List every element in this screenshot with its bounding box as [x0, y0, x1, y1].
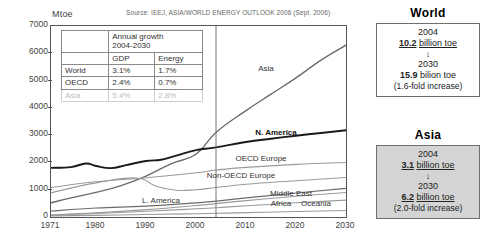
world-summary-box: 2004 10.2 billion toe ↓ 2030 15.9 bilion… [376, 23, 480, 97]
series-label-africa: Africa [271, 199, 291, 208]
table-row: World 3.1% 1.7% [62, 65, 203, 77]
table-row: Asia 5.4% 2.8% [62, 89, 203, 101]
asia-value-from: 3.1 billion toe [379, 160, 477, 171]
world-value-from-number: 10.2 [399, 38, 417, 48]
x-tick-label: 1971 [30, 220, 70, 230]
x-tick-label: 1990 [125, 220, 165, 230]
asia-value-to: 6.2 billion toe [379, 192, 477, 203]
x-tick-label: 2000 [175, 220, 215, 230]
cell-world-energy: 1.7% [155, 65, 203, 77]
asia-summary-box: 2004 3.1 billion toe ↓ 2030 6.2 billion … [376, 145, 480, 219]
cell-asia-energy: 2.8% [155, 89, 203, 101]
series-label-asia: Asia [258, 64, 274, 73]
world-value-from: 10.2 billion toe [379, 38, 477, 49]
world-summary-title: World [376, 6, 480, 20]
x-tick-label: 2010 [225, 220, 265, 230]
y-tick-label: 0 [10, 211, 48, 220]
cell-oecd-energy: 0.7% [155, 77, 203, 89]
cell-asia-gdp: 5.4% [109, 89, 155, 101]
x-axis: 1971198019902000201020202030 [0, 220, 375, 240]
asia-summary-title: Asia [376, 128, 480, 142]
world-year-from: 2004 [379, 27, 477, 38]
y-tick-label: 4000 [10, 102, 48, 111]
table-corner-cell [62, 31, 109, 53]
asia-increase-note: (2.0-fold increase) [379, 203, 477, 214]
y-tick-label: 3000 [10, 129, 48, 138]
series-label-oecd-europe: OECD Europe [235, 154, 286, 163]
column-header-energy: Energy [155, 53, 203, 65]
chart-panel: Mtoe Source: IEEJ, ASIA/WORLD ENERGY OUT… [0, 0, 375, 248]
energy-outlook-chart-figure: Mtoe Source: IEEJ, ASIA/WORLD ENERGY OUT… [0, 0, 483, 248]
y-axis-unit-label: Mtoe [52, 9, 73, 19]
table-header-row: Annual growth 2004-2030 [62, 31, 203, 53]
series-label-n-america: N. America [255, 128, 297, 137]
asia-value-from-unit: billion toe [417, 160, 455, 170]
asia-value-to-number: 6.2 [401, 192, 414, 202]
table-header-annual-growth: Annual growth 2004-2030 [109, 31, 203, 53]
x-tick-label: 2020 [275, 220, 315, 230]
y-tick-label: 7000 [10, 20, 48, 29]
source-note: Source: IEEJ, ASIA/WORLD ENERGY OUTLOOK … [126, 9, 330, 16]
y-tick-label: 5000 [10, 75, 48, 84]
cell-world-gdp: 3.1% [109, 65, 155, 77]
row-label-world: World [62, 65, 109, 77]
column-header-gdp: GDP [109, 53, 155, 65]
y-axis: 01000200030004000500060007000 [0, 0, 48, 248]
asia-year-to: 2030 [379, 181, 477, 192]
world-value-to: 15.9 bilion toe [379, 70, 477, 81]
table-blank-cell [62, 53, 109, 65]
row-label-asia: Asia [62, 89, 109, 101]
world-value-to-unit: bilion toe [420, 70, 456, 80]
series-label-l-america: L. America [142, 196, 180, 205]
down-arrow-icon: ↓ [379, 172, 477, 181]
asia-value-to-unit: billion toe [417, 192, 455, 202]
y-tick-label: 1000 [10, 184, 48, 193]
series-label-oceania: Oceania [301, 199, 331, 208]
annual-growth-table: Annual growth 2004-2030 GDP Energy World… [61, 30, 203, 102]
world-value-from-unit: billion toe [419, 38, 457, 48]
world-year-to: 2030 [379, 59, 477, 70]
series-label-middle-east: Middle East [270, 189, 312, 198]
world-value-to-number: 15.9 [400, 70, 418, 80]
cell-oecd-gdp: 2.4% [109, 77, 155, 89]
asia-summary-block: Asia 2004 3.1 billion toe ↓ 2030 6.2 bil… [376, 128, 480, 219]
asia-year-from: 2004 [379, 149, 477, 160]
world-summary-block: World 2004 10.2 billion toe ↓ 2030 15.9 … [376, 6, 480, 97]
down-arrow-icon: ↓ [379, 50, 477, 59]
x-tick-label: 1980 [75, 220, 115, 230]
y-tick-label: 6000 [10, 47, 48, 56]
y-tick-label: 2000 [10, 156, 48, 165]
world-increase-note: (1.6-fold increase) [379, 81, 477, 92]
table-subheader-row: GDP Energy [62, 53, 203, 65]
table-row: OECD 2.4% 0.7% [62, 77, 203, 89]
header-line-1: Annual growth [112, 32, 163, 41]
asia-value-from-number: 3.1 [401, 160, 414, 170]
header-line-2: 2004-2030 [112, 41, 150, 50]
row-label-oecd: OECD [62, 77, 109, 89]
x-tick-label: 2030 [325, 220, 365, 230]
series-label-non-oecd-europe: Non-OECD Europe [207, 171, 275, 180]
series-line-n-america [51, 130, 346, 168]
